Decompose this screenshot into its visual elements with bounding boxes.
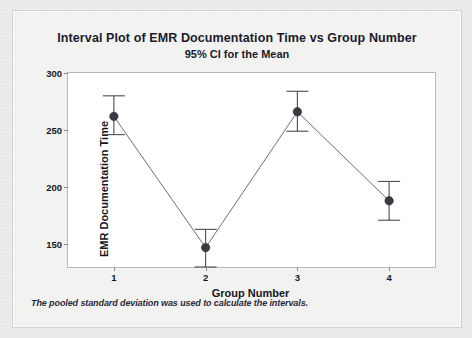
x-tick-mark — [114, 267, 115, 271]
y-tick-mark — [64, 73, 68, 74]
chart-card: Interval Plot of EMR Documentation Time … — [12, 10, 462, 328]
x-tick-mark — [389, 267, 390, 271]
data-point-marker — [110, 112, 118, 120]
y-tick-mark — [64, 130, 68, 131]
plot-frame: EMR Documentation Time 3002502001501234 — [67, 72, 436, 268]
chart-footnote: The pooled standard deviation was used t… — [31, 298, 308, 308]
x-tick-mark — [297, 267, 298, 271]
interval-group — [286, 91, 308, 131]
data-point-marker — [385, 197, 393, 205]
interval-group — [103, 96, 125, 135]
data-point-marker — [201, 243, 209, 251]
page-background: Interval Plot of EMR Documentation Time … — [0, 0, 472, 338]
interval-group — [378, 181, 400, 220]
interval-group — [195, 229, 217, 267]
series-line — [114, 112, 389, 248]
x-tick-mark — [206, 267, 207, 271]
y-tick-mark — [64, 244, 68, 245]
data-point-marker — [293, 108, 301, 116]
plot-area: EMR Documentation Time 3002502001501234 … — [13, 11, 461, 327]
y-tick-mark — [64, 187, 68, 188]
chart-canvas — [68, 73, 435, 267]
